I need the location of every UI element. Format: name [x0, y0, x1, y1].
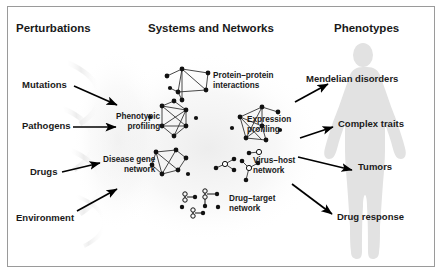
central-cloud-backdrop [72, 48, 326, 243]
column-header-phenotypes: Phenotypes [334, 22, 399, 34]
network-label-line2: network [253, 166, 295, 176]
network-label-phenotypic-profiling: Phenotypic profiling [116, 112, 160, 131]
network-label-line2: profiling [116, 122, 160, 132]
network-label-line1: Expression [247, 115, 291, 125]
network-label-virus-host-network: Virus–host network [253, 156, 295, 175]
network-label-drug-target-network: Drug–target network [229, 194, 275, 213]
figure-graphics [0, 0, 444, 276]
perturbation-label-pathogens: Pathogens [22, 120, 71, 131]
phenotype-label-mendelian-disorders: Mendelian disorders [306, 73, 398, 84]
network-label-line2: interactions [213, 81, 274, 91]
network-label-line2: profiling [247, 125, 291, 135]
phenotype-label-complex-traits: Complex traits [338, 118, 404, 129]
figure-root: Perturbations Systems and Networks Pheno… [0, 0, 444, 276]
network-label-expression-profiling: Expression profiling [247, 115, 291, 134]
perturbation-label-drugs: Drugs [30, 166, 57, 177]
network-label-line1: Virus–host [253, 156, 295, 166]
column-header-perturbations: Perturbations [16, 22, 91, 34]
network-label-disease-gene-network: Disease gene network [103, 155, 155, 174]
perturbation-label-mutations: Mutations [22, 79, 67, 90]
column-header-systems-and-networks: Systems and Networks [148, 22, 274, 34]
phenotype-label-tumors: Tumors [358, 161, 392, 172]
network-label-line1: Drug–target [229, 194, 275, 204]
network-label-protein-protein-interactions: Protein–protein interactions [213, 71, 274, 90]
network-label-line1: Protein–protein [213, 71, 274, 81]
perturbation-label-environment: Environment [16, 212, 74, 223]
network-label-line1: Phenotypic [116, 112, 160, 122]
phenotype-label-drug-response: Drug response [337, 211, 404, 222]
network-label-line2: network [229, 204, 275, 214]
network-label-line2: network [103, 165, 155, 175]
network-label-line1: Disease gene [103, 155, 155, 165]
